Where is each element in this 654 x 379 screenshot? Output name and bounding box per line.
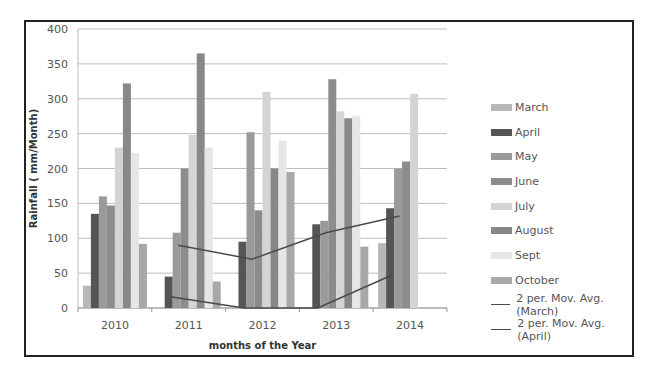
- bar-may: [247, 132, 255, 308]
- bar-july: [115, 148, 123, 308]
- legend: MarchAprilMayJuneJulyAugustSeptOctober2 …: [491, 95, 632, 342]
- y-tick-label: 300: [47, 93, 68, 106]
- legend-swatch: [491, 129, 512, 136]
- bar-march: [378, 243, 386, 308]
- legend-line-icon: [491, 304, 510, 305]
- legend-item: July: [491, 194, 632, 219]
- y-tick-label: 0: [61, 302, 68, 315]
- y-tick-label: 150: [47, 197, 68, 210]
- x-axis-title: months of the Year: [209, 340, 316, 351]
- legend-item: April: [491, 120, 632, 145]
- legend-item: Sept: [491, 243, 632, 268]
- legend-swatch: [491, 104, 512, 111]
- legend-item: March: [491, 95, 632, 120]
- bar-may: [394, 169, 402, 309]
- legend-label: August: [515, 224, 554, 237]
- bar-sept: [205, 148, 213, 308]
- legend-label: March: [515, 101, 549, 114]
- legend-label: June: [515, 175, 539, 188]
- bar-july: [336, 111, 344, 308]
- bar-april: [239, 242, 247, 308]
- y-tick-label: 100: [47, 232, 68, 245]
- x-tick-label: 2013: [322, 319, 350, 332]
- bar-sept: [352, 116, 360, 308]
- legend-item: 2 per. Mov. Avg. (March): [491, 293, 632, 318]
- legend-swatch: [491, 227, 512, 234]
- x-tick-label: 2010: [101, 319, 129, 332]
- bar-may: [99, 196, 107, 308]
- bar-april: [165, 277, 173, 308]
- legend-item: June: [491, 169, 632, 194]
- bar-july: [410, 94, 418, 308]
- legend-item: October: [491, 268, 632, 293]
- bar-sept: [279, 141, 287, 308]
- legend-label: May: [515, 150, 538, 163]
- bar-june: [402, 162, 410, 308]
- bar-april: [91, 214, 99, 308]
- bar-june: [328, 79, 336, 308]
- y-axis-title: Rainfall ( mm/Month): [28, 109, 39, 228]
- bar-august: [344, 118, 352, 308]
- bar-june: [255, 210, 263, 308]
- x-tick-label: 2014: [396, 319, 424, 332]
- bar-august: [197, 53, 205, 308]
- x-tick-label: 2011: [175, 319, 203, 332]
- y-tick-label: 400: [47, 23, 68, 36]
- legend-item: May: [491, 144, 632, 169]
- legend-item: August: [491, 218, 632, 243]
- bar-august: [123, 83, 131, 308]
- legend-swatch: [491, 277, 512, 284]
- bar-july: [263, 92, 271, 308]
- bar-june: [107, 205, 115, 308]
- bar-march: [83, 286, 91, 308]
- legend-swatch: [491, 203, 512, 210]
- legend-label: 2 per. Mov. Avg. (March): [516, 292, 632, 318]
- legend-line-icon: [491, 329, 511, 330]
- bar-july: [189, 135, 197, 308]
- legend-label: July: [515, 200, 535, 213]
- legend-swatch: [491, 178, 512, 185]
- bar-october: [139, 244, 147, 308]
- legend-label: April: [515, 126, 540, 139]
- bar-october: [360, 247, 368, 308]
- x-tick-label: 2012: [249, 319, 277, 332]
- legend-swatch: [491, 252, 512, 259]
- y-tick-label: 350: [47, 58, 68, 71]
- legend-label: Sept: [515, 249, 540, 262]
- bar-april: [386, 208, 394, 308]
- y-tick-label: 250: [47, 128, 68, 141]
- bar-october: [287, 172, 295, 308]
- chart-frame: 0501001502002503003504002010201120122013…: [24, 20, 634, 357]
- y-tick-label: 50: [54, 267, 68, 280]
- legend-label: October: [515, 274, 559, 287]
- y-tick-label: 200: [47, 163, 68, 176]
- legend-item: 2 per. Mov. Avg. (April): [491, 317, 632, 342]
- bar-june: [181, 169, 189, 309]
- legend-label: 2 per. Mov. Avg. (April): [517, 317, 632, 343]
- legend-swatch: [491, 153, 512, 160]
- bar-sept: [131, 153, 139, 308]
- bar-august: [271, 169, 279, 309]
